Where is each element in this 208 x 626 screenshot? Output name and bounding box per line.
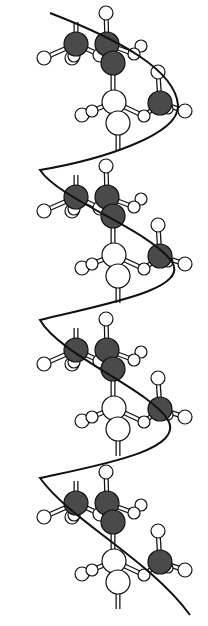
hydrogen-atom	[178, 104, 192, 118]
hydrogen-atom	[128, 354, 140, 366]
hydrogen-atom	[86, 564, 98, 576]
hydrogen-atom	[37, 51, 51, 65]
light-atom	[106, 264, 130, 288]
hydrogen-atom	[99, 465, 113, 479]
atoms-layer	[37, 6, 192, 594]
hydrogen-atom	[138, 263, 150, 275]
hydrogen-atom	[37, 357, 51, 371]
carbon-atom	[101, 510, 125, 534]
hydrogen-atom	[128, 507, 140, 519]
hydrogen-atom	[99, 159, 113, 173]
hydrogen-atom	[128, 201, 140, 213]
molecular-helix-diagram	[0, 0, 208, 626]
carbon-atom	[148, 91, 172, 115]
hydrogen-atom	[178, 257, 192, 271]
hydrogen-atom	[37, 204, 51, 218]
carbon-atom	[101, 51, 125, 75]
helix-model	[0, 0, 208, 626]
light-atom	[106, 111, 130, 135]
light-atom	[102, 243, 126, 267]
hydrogen-atom	[99, 312, 113, 326]
hydrogen-atom	[151, 524, 165, 538]
hydrogen-atom	[99, 6, 113, 20]
hydrogen-atom	[86, 411, 98, 423]
hydrogen-atom	[151, 371, 165, 385]
carbon-atom	[64, 32, 88, 56]
hydrogen-atom	[178, 563, 192, 577]
carbon-atom	[64, 491, 88, 515]
light-atom	[102, 90, 126, 114]
hydrogen-atom	[178, 410, 192, 424]
light-atom	[106, 570, 130, 594]
carbon-atom	[64, 185, 88, 209]
light-atom	[102, 549, 126, 573]
light-atom	[102, 396, 126, 420]
hydrogen-atom	[37, 510, 51, 524]
hydrogen-atom	[151, 218, 165, 232]
hydrogen-atom	[138, 110, 150, 122]
hydrogen-atom	[86, 258, 98, 270]
light-atom	[106, 417, 130, 441]
hydrogen-atom	[86, 105, 98, 117]
hydrogen-atom	[138, 416, 150, 428]
carbon-atom	[148, 550, 172, 574]
